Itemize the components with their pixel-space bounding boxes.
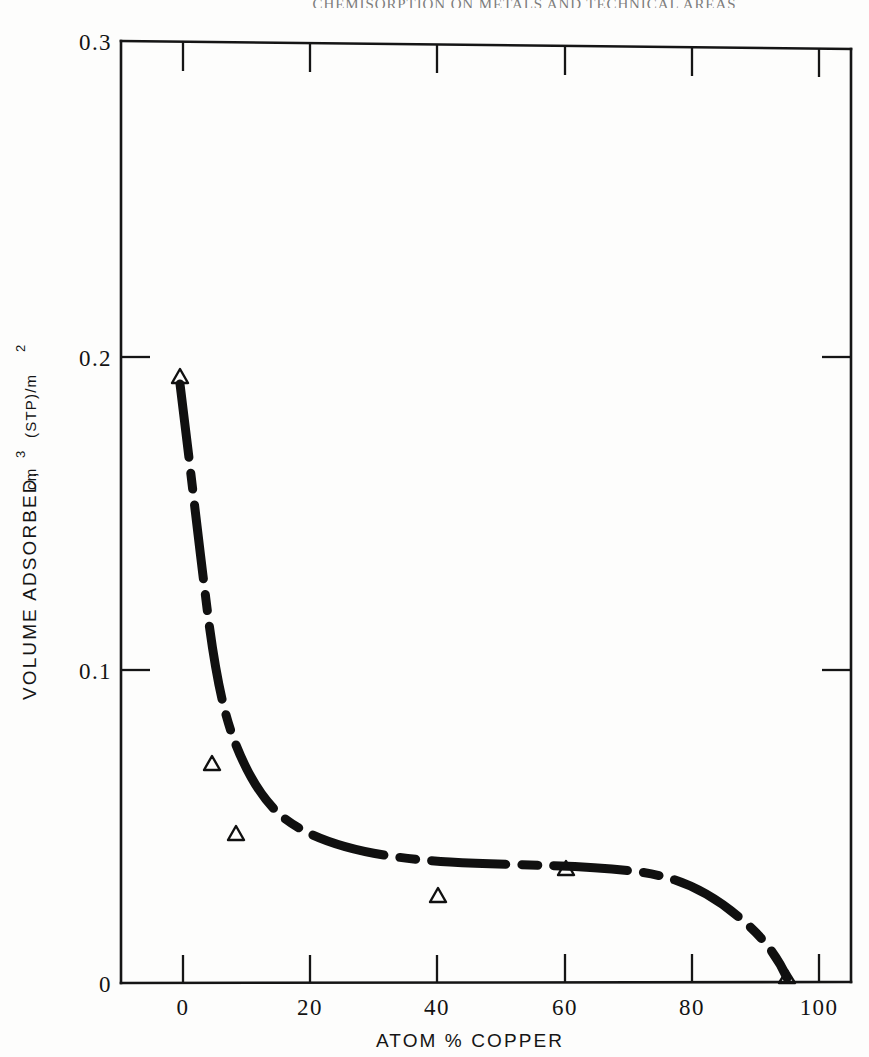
y-axis-title: VOLUME ADSORBED, cm 3 (STP)/m 2 (13, 345, 40, 700)
y-axis-title-unit-cm-exponent: 3 (13, 451, 28, 458)
data-point-marker (228, 826, 244, 840)
axes-frame (121, 41, 851, 983)
axis-bottom-spine (121, 982, 851, 983)
y-axis-title-unit-stp-exponent: 2 (13, 345, 28, 352)
data-curve (180, 384, 787, 978)
y-tick-labels: 0.3 0.2 0.1 0 (79, 30, 112, 997)
x-axis-title: ATOM % COPPER (376, 1030, 564, 1051)
axis-top-spine (121, 41, 851, 49)
x-tick-labels: 0 20 40 60 80 100 (177, 995, 839, 1020)
x-tick-label-20: 20 (297, 995, 323, 1020)
data-point-marker (430, 888, 446, 902)
x-tick-label-60: 60 (552, 995, 578, 1020)
x-tick-label-80: 80 (679, 995, 705, 1020)
y-tick-label-0: 0 (99, 972, 112, 997)
bottom-ticks (183, 954, 819, 983)
y-axis-title-unit-cm: cm (22, 468, 39, 490)
y-tick-label-0.1: 0.1 (79, 659, 112, 684)
y-tick-label-0.3: 0.3 (79, 30, 112, 55)
x-tick-label-100: 100 (800, 995, 839, 1020)
chart-figure: 0.3 0.2 0.1 0 0 20 40 60 80 100 ATOM % C… (0, 0, 869, 1057)
y-axis-title-main: VOLUME ADSORBED, (19, 470, 40, 700)
x-tick-label-0: 0 (177, 995, 190, 1020)
right-ticks (822, 357, 851, 670)
tick-marks (121, 42, 851, 983)
data-point-marker (204, 756, 220, 770)
y-axis-title-unit-stp: (STP)/m (22, 374, 39, 438)
figure-page: CHEMISORPTION ON METALS AND TECHNICAL AR… (0, 0, 869, 1057)
y-tick-label-0.2: 0.2 (79, 346, 112, 371)
data-curve-path (180, 384, 787, 978)
left-ticks (121, 357, 150, 670)
x-tick-label-40: 40 (424, 995, 450, 1020)
chart-svg: 0.3 0.2 0.1 0 0 20 40 60 80 100 ATOM % C… (0, 0, 869, 1057)
